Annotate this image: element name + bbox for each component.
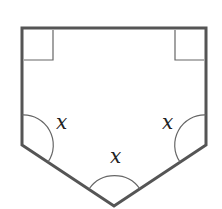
- right-angle-marker-top-right: [175, 30, 204, 60]
- angle-label-bottom: x: [110, 144, 121, 168]
- pentagon-diagram: x x x: [0, 0, 222, 209]
- angle-label-left: x: [56, 110, 67, 134]
- angle-arc-bottom: [89, 176, 140, 189]
- angle-label-right: x: [162, 110, 173, 134]
- pentagon-outline: [22, 28, 206, 206]
- right-angle-marker-top-left: [24, 30, 53, 60]
